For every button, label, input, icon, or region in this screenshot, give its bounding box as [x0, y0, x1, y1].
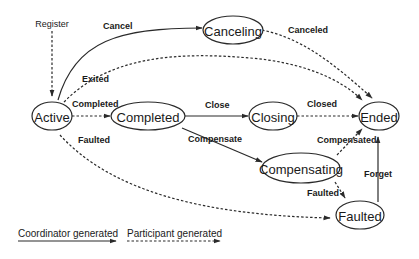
node-label-compensating: Compensating	[259, 162, 343, 177]
edge-label-compensated: Compensated	[317, 135, 377, 145]
legend-item-participant: Participant generated	[127, 228, 222, 241]
node-label-closing: Closing	[251, 110, 294, 125]
node-faulted: Faulted	[336, 201, 384, 229]
legend-label-coordinator: Coordinator generated	[18, 228, 118, 239]
legend-item-coordinator: Coordinator generated	[18, 228, 118, 241]
node-closing: Closing	[249, 102, 297, 130]
edge-label-completed: Completed	[72, 99, 119, 109]
edge-label-exited: Exited	[82, 74, 109, 84]
edge-label-cancel: Cancel	[103, 21, 133, 31]
node-active: Active	[32, 102, 72, 130]
edge-label-faulted-compensating: Faulted	[307, 188, 339, 198]
node-label-active: Active	[34, 110, 69, 125]
node-compensating: Compensating	[259, 153, 343, 183]
legend: Coordinator generated Participant genera…	[18, 228, 222, 241]
edge-label-canceled: Canceled	[288, 25, 328, 35]
node-label-canceling: Canceling	[204, 24, 262, 39]
node-canceling: Canceling	[203, 16, 263, 44]
node-label-faulted: Faulted	[338, 209, 381, 224]
edge-label-closed: Closed	[307, 99, 337, 109]
edge-label-faulted-active: Faulted	[78, 135, 110, 145]
edge-label-forget: Forget	[364, 169, 392, 179]
edge-label-compensate: Compensate	[188, 134, 242, 144]
edge-label-close: Close	[205, 100, 230, 110]
node-label-completed: Completed	[117, 110, 180, 125]
entry-label-register: Register	[35, 19, 69, 29]
state-diagram: Register Cancel Canceled Exited Complete…	[0, 0, 419, 259]
legend-label-participant: Participant generated	[127, 228, 222, 239]
node-ended: Ended	[359, 102, 399, 130]
node-label-ended: Ended	[360, 110, 398, 125]
edge-canceled	[262, 30, 372, 98]
node-completed: Completed	[111, 102, 185, 130]
